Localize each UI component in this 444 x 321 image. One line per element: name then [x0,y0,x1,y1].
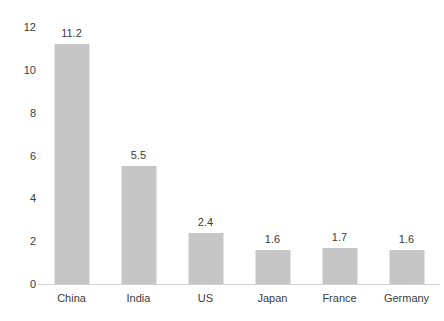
bar-value-label: 1.6 [265,234,280,245]
y-tick-label: 2 [2,236,36,247]
x-tick-label: Japan [239,292,306,305]
bar[interactable] [54,44,89,284]
x-tick-label: India [105,292,172,305]
bar[interactable] [255,250,290,284]
bar-chart: 024681012 11.25.52.41.61.71.6 ChinaIndia… [0,0,444,321]
bar-value-label: 1.7 [332,232,347,243]
bar-group: 5.5 [105,0,172,284]
x-tick-label: France [306,292,373,305]
bar-value-label: 5.5 [131,150,146,161]
x-tick-label: US [172,292,239,305]
bar-value-label: 1.6 [399,234,414,245]
y-tick-label: 12 [2,22,36,33]
bar[interactable] [121,166,156,284]
y-tick-label: 4 [2,193,36,204]
plot-area: 11.25.52.41.61.71.6 [38,0,440,284]
bar[interactable] [188,233,223,284]
bar-group: 11.2 [38,0,105,284]
bar[interactable] [322,248,357,284]
y-tick-label: 0 [2,279,36,290]
x-axis-baseline [38,284,440,285]
y-tick-label: 8 [2,107,36,118]
bar-group: 2.4 [172,0,239,284]
bar-value-label: 11.2 [61,28,82,39]
bar-group: 1.6 [373,0,440,284]
bar-group: 1.7 [306,0,373,284]
bar[interactable] [389,250,424,284]
x-tick-label: China [38,292,105,305]
x-tick-label: Germany [373,292,440,305]
y-tick-label: 10 [2,64,36,75]
x-axis: ChinaIndiaUSJapanFranceGermany [38,292,440,314]
bar-value-label: 2.4 [198,217,213,228]
y-tick-label: 6 [2,150,36,161]
bar-group: 1.6 [239,0,306,284]
y-axis: 024681012 [0,0,36,321]
